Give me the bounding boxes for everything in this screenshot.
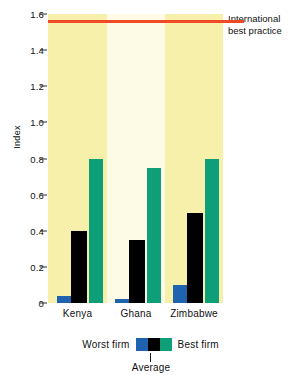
bar-kenya-average	[71, 231, 87, 303]
x-tick-label-zimbabwe: Zimbabwe	[164, 308, 224, 319]
annotation-line-2: best practice	[228, 25, 300, 37]
plot-area	[48, 14, 223, 303]
international-best-practice-annotation: International best practice	[228, 13, 300, 36]
y-tick-mark-7	[40, 50, 47, 51]
y-tick-label-4: 0.8	[0, 154, 44, 165]
legend-row: Worst firm Best firm	[0, 338, 301, 351]
legend-label-average: Average	[110, 362, 192, 373]
bar-ghana-average	[129, 240, 145, 303]
international-best-practice-line	[48, 20, 244, 23]
y-tick-label-1: 0.2	[0, 262, 44, 273]
y-tick-mark-0	[40, 303, 47, 304]
x-tick-label-ghana: Ghana	[107, 308, 165, 319]
y-tick-label-5: 1.0	[0, 117, 44, 128]
bar-ghana-best-firm	[147, 168, 161, 304]
y-tick-mark-6	[40, 86, 47, 87]
x-tick-label-kenya: Kenya	[48, 308, 107, 319]
chart-legend: Worst firm Best firm Average	[0, 338, 301, 375]
y-tick-mark-5	[40, 122, 47, 123]
legend-label-best-firm: Best firm	[178, 339, 219, 350]
y-tick-label-0: 0	[0, 298, 44, 309]
bar-kenya-worst-firm	[57, 296, 71, 303]
bar-zimbabwe-worst-firm	[173, 285, 187, 303]
y-tick-label-7: 1.4	[0, 45, 44, 56]
legend-swatches	[136, 338, 172, 351]
bar-kenya-best-firm	[89, 159, 103, 304]
bar-zimbabwe-best-firm	[205, 159, 219, 304]
bar-ghana-worst-firm	[115, 299, 129, 303]
chart-figure: Index 0 0.2 0.4 0.6 0.8 1.0 1.2 1.4 1.6 …	[0, 0, 301, 375]
legend-swatch-best-firm	[160, 338, 172, 351]
legend-label-worst-firm: Worst firm	[82, 339, 129, 350]
y-tick-label-3: 0.6	[0, 190, 44, 201]
y-tick-label-6: 1.2	[0, 81, 44, 92]
y-tick-mark-2	[40, 231, 47, 232]
y-tick-mark-8	[40, 14, 47, 15]
y-tick-label-2: 0.4	[0, 226, 44, 237]
bar-zimbabwe-average	[187, 213, 203, 303]
legend-average-pointer	[150, 353, 151, 362]
y-tick-label-8: 1.6	[0, 9, 44, 20]
legend-swatch-average	[148, 338, 160, 351]
y-tick-mark-3	[40, 195, 47, 196]
y-tick-mark-4	[40, 159, 47, 160]
y-tick-mark-1	[40, 267, 47, 268]
legend-swatch-worst-firm	[136, 338, 148, 351]
